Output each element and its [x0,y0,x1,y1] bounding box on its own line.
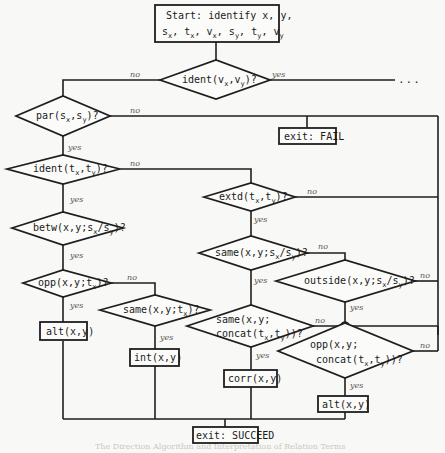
edge-label-yes: yes [69,251,83,260]
svg-text:opp(x,y;: opp(x,y; [310,339,358,350]
edge-label-no: no [315,316,325,325]
decision-outside: outside(x,y;sx/sy)? [276,260,415,302]
edge-label-yes: yes [255,351,269,360]
exit-fail-label: exit: FAIL [284,131,344,142]
decision-par-s: par(sx,sy)? [16,96,110,136]
edge-label-no: no [130,159,140,168]
flowchart-svg: The Direction Algorithm and Interpretati… [0,0,445,453]
decision-same-s: same(x,y;sx/sy)? [199,236,308,270]
edge-label-no: no [127,273,137,282]
exit-succeed-label: exit: SUCCEED [196,430,274,441]
action-exit-succeed: exit: SUCCEED [193,427,274,443]
alt-left-label: alt(x,y) [46,326,94,337]
decision-opp-t: opp(x,y;tx)? [23,270,111,297]
flowchart-canvas: The Direction Algorithm and Interpretati… [0,0,445,453]
edge-label-no: no [130,70,140,79]
edge-label-yes: yes [69,301,83,310]
continuation-ellipsis: ... [398,73,421,86]
edge-label-yes: yes [159,333,173,342]
action-corr: corr(x,y) [224,370,282,387]
edge-label-no: no [420,341,430,350]
edge-label-yes: yes [271,70,285,79]
action-int: int(x,y) [130,349,182,366]
edge-label-yes: yes [67,143,81,152]
edge-label-yes: yes [349,381,363,390]
decision-ident-v: ident(vx,vy)? [160,60,270,99]
action-alt-right: alt(x,y) [318,396,370,412]
start-line-1: Start: identify x, y, [166,10,292,21]
edge-label-no: no [318,242,328,251]
int-label: int(x,y) [134,352,182,363]
edge-label-no: no [130,106,140,115]
edge-label-yes: yes [349,303,363,312]
edge-label-yes: yes [69,195,83,204]
decision-betw: betw(x,y;sx/sy)? [12,212,126,245]
decision-same-t: same(x,y;tx)? [100,295,210,326]
edge-label-yes: yes [253,215,267,224]
svg-text:same(x,y;: same(x,y; [216,314,270,325]
edge-label-no: no [420,271,430,280]
edge-label-no: no [307,187,317,196]
action-exit-fail: exit: FAIL [279,128,344,144]
decision-ident-t: ident(tx,ty)? [7,155,120,184]
edge-label-yes: yes [253,276,267,285]
decision-extd-t: extd(tx,ty)? [204,183,295,211]
action-alt-left: alt(x,y) [40,322,94,340]
alt-right-label: alt(x,y) [322,399,370,410]
start-node: Start: identify x, y, sx, tx, vx, sy, ty… [155,5,292,42]
corr-label: corr(x,y) [228,373,282,384]
